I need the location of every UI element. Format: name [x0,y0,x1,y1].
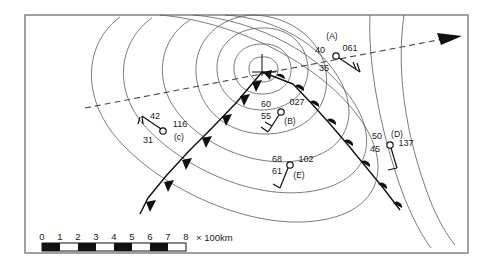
scale-seg-6 [150,243,168,251]
scale-tick-3: 3 [93,231,98,242]
scale-seg-0 [42,243,60,251]
station-A-temperature: 40 [315,45,325,55]
station-A-label: (A) [326,31,338,41]
scale-tick-7: 7 [165,231,170,242]
station-D-dewpoint: 45 [370,144,380,154]
scale-tick-4: 4 [111,231,116,242]
station-E-pressure: 102 [298,154,313,164]
station-B-temperature: 60 [261,99,271,109]
station-C-pressure: 116 [173,119,187,129]
station-A-dewpoint: 35 [319,63,329,73]
station-A-circle [333,53,339,59]
station-C-temperature: 42 [150,111,160,121]
scale-seg-4 [114,243,132,251]
station-C-dewpoint: 31 [143,135,153,145]
station-D-label: (D) [391,129,403,139]
scale-seg-2 [78,243,96,251]
scale-tick-5: 5 [129,231,134,242]
station-D-circle [387,142,393,148]
station-E-temperature: 68 [272,154,282,164]
station-D-pressure: 137 [398,138,413,148]
station-B-label: (B) [284,116,296,126]
station-E-circle [287,162,293,168]
station-E-dewpoint: 61 [272,166,282,176]
scale-unit-label: × 100km [196,232,233,243]
station-C-label: (c) [174,132,184,142]
scale-tick-6: 6 [147,231,152,242]
station-B-dewpoint: 55 [261,111,271,121]
scale-tick-2: 2 [75,231,80,242]
station-A-pressure: 061 [342,43,357,53]
station-E-label: (E) [293,170,305,180]
station-B-pressure: 027 [289,97,304,107]
scale-tick-0: 0 [39,231,44,242]
scale-tick-8: 8 [183,231,188,242]
weather-chart-figure: 40 061 35 (A) 60 027 55 (B) 42 116 31 (c… [0,0,493,269]
station-B-circle [278,109,284,115]
scale-tick-1: 1 [57,231,62,242]
station-D-temperature: 50 [372,131,382,141]
